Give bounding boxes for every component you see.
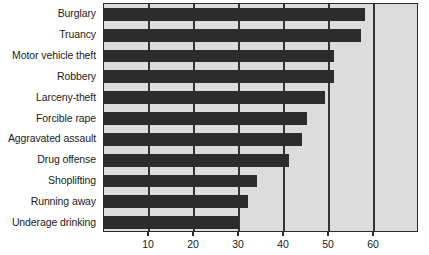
bar <box>104 133 302 146</box>
x-axis: 102030405060 <box>103 232 418 255</box>
bar <box>104 29 361 42</box>
bar <box>104 50 334 63</box>
x-tick-label: 40 <box>277 238 289 250</box>
x-tick-label: 20 <box>187 238 199 250</box>
y-axis-category-labels: BurglaryTruancyMotor vehicle theftRobber… <box>0 3 101 232</box>
y-axis-label: Motor vehicle theft <box>12 49 96 61</box>
y-axis-label: Robbery <box>57 70 96 82</box>
bar-chart: BurglaryTruancyMotor vehicle theftRobber… <box>0 0 429 255</box>
x-tick <box>282 232 283 236</box>
plot-area <box>103 3 418 232</box>
bar <box>104 216 239 229</box>
x-tick-label: 60 <box>367 238 379 250</box>
x-tick-label: 50 <box>322 238 334 250</box>
bar <box>104 154 289 167</box>
gridline-60 <box>373 4 375 231</box>
x-tick <box>147 232 148 236</box>
bar <box>104 175 257 188</box>
x-tick <box>237 232 238 236</box>
bar <box>104 112 307 125</box>
y-axis-label: Forcible rape <box>36 112 96 124</box>
y-axis-label: Truancy <box>59 28 96 40</box>
x-tick <box>372 232 373 236</box>
y-axis-label: Underage drinking <box>12 216 96 228</box>
y-axis-label: Shoplifting <box>48 174 96 186</box>
y-axis-label: Running away <box>31 195 96 207</box>
x-tick <box>192 232 193 236</box>
bar <box>104 195 248 208</box>
y-axis-label: Larceny-theft <box>36 91 96 103</box>
bar <box>104 8 365 21</box>
x-tick-label: 30 <box>232 238 244 250</box>
bar <box>104 91 325 104</box>
x-tick <box>327 232 328 236</box>
y-axis-label: Aggravated assault <box>8 132 96 144</box>
y-axis-label: Burglary <box>58 7 96 19</box>
y-axis-label: Drug offense <box>37 153 96 165</box>
x-tick-label: 10 <box>142 238 154 250</box>
bar <box>104 70 334 83</box>
